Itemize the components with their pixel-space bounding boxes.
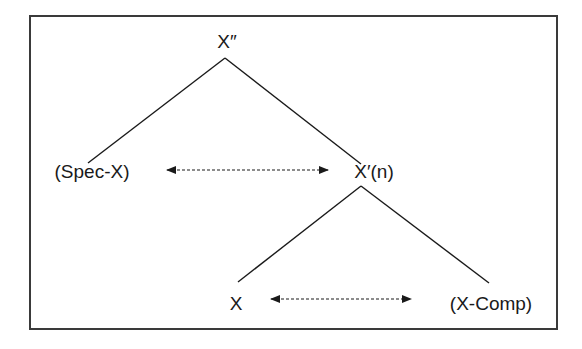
diagram-canvas: X″ (Spec-X) X′(n) X (X-Comp) bbox=[0, 0, 582, 349]
node-head-label: X bbox=[230, 293, 243, 314]
edge-root-bar bbox=[225, 58, 361, 164]
node-root-label: X″ bbox=[217, 31, 237, 52]
node-specifier-label: (Spec-X) bbox=[55, 161, 130, 182]
node-bar-label: X′(n) bbox=[354, 161, 393, 182]
node-complement-label: (X-Comp) bbox=[450, 293, 532, 314]
edge-bar-head bbox=[238, 186, 361, 282]
edge-root-specifier bbox=[88, 58, 225, 163]
x-bar-tree: X″ (Spec-X) X′(n) X (X-Comp) bbox=[0, 0, 582, 349]
edge-bar-complement bbox=[361, 186, 489, 283]
